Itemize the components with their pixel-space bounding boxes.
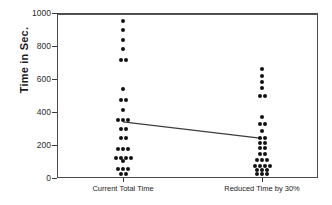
data-point: [263, 136, 267, 140]
data-point: [124, 136, 128, 140]
data-point: [121, 47, 125, 51]
data-point: [260, 115, 264, 119]
data-point: [116, 118, 120, 122]
data-point: [265, 158, 269, 162]
data-point: [263, 146, 267, 150]
y-axis-tick-label: 1000: [23, 9, 51, 18]
x-axis-tick-label: Reduced Time by 30%: [224, 184, 299, 193]
data-point: [129, 156, 133, 160]
trend-line-segment: [123, 122, 262, 138]
data-point: [121, 38, 125, 42]
data-point: [121, 167, 125, 171]
data-point: [260, 129, 264, 133]
data-point: [121, 19, 125, 23]
data-point: [119, 172, 123, 176]
data-point: [260, 74, 264, 78]
data-point: [260, 67, 264, 71]
data-point: [263, 164, 267, 168]
x-axis-tick-mark: [123, 177, 124, 182]
data-point: [255, 158, 259, 162]
data-point: [263, 94, 267, 98]
data-point: [253, 164, 257, 168]
data-point: [258, 152, 262, 156]
data-point: [260, 158, 264, 162]
data-point: [263, 141, 267, 145]
data-point: [119, 127, 123, 131]
y-axis-tick-mark: [52, 178, 57, 179]
mean-connector-line: [57, 13, 318, 178]
data-point: [121, 28, 125, 32]
data-point: [263, 122, 267, 126]
data-point: [268, 164, 272, 168]
data-point: [124, 127, 128, 131]
chart-screenshot: Time in Sec. 1000 800 600 400 200 0 Curr…: [0, 0, 332, 205]
x-axis-tick-mark: [262, 177, 263, 182]
data-point: [258, 136, 262, 140]
data-point: [114, 156, 118, 160]
y-axis-tick-label: 600: [23, 75, 51, 84]
data-point: [119, 136, 123, 140]
y-axis-tick-label: 400: [23, 108, 51, 117]
data-point: [119, 58, 123, 62]
data-point: [255, 168, 259, 172]
data-point: [255, 172, 259, 176]
data-point: [119, 98, 123, 102]
data-point: [126, 147, 130, 151]
data-point: [121, 147, 125, 151]
y-axis-tick-label-group: 1000 800 600 400 200 0: [23, 0, 51, 205]
plot-area: [57, 13, 318, 178]
data-point: [258, 141, 262, 145]
y-axis-tick-label: 800: [23, 42, 51, 51]
data-point: [121, 108, 125, 112]
data-point: [260, 80, 264, 84]
data-point: [126, 118, 130, 122]
data-point: [124, 172, 128, 176]
data-point: [263, 152, 267, 156]
data-point: [119, 156, 123, 160]
data-point: [121, 87, 125, 91]
y-axis-tick-label: 0: [23, 174, 51, 183]
data-point: [258, 94, 262, 98]
data-point: [260, 86, 264, 90]
data-point: [260, 168, 264, 172]
data-point: [126, 167, 130, 171]
data-point: [260, 172, 264, 176]
data-point: [265, 172, 269, 176]
data-point: [265, 168, 269, 172]
data-point: [116, 167, 120, 171]
data-point: [258, 122, 262, 126]
data-point: [124, 156, 128, 160]
data-point: [121, 118, 125, 122]
data-point: [124, 98, 128, 102]
x-axis-tick-label: Current Total Time: [92, 184, 153, 193]
data-point: [258, 164, 262, 168]
data-point: [258, 146, 262, 150]
y-axis-tick-label: 200: [23, 141, 51, 150]
data-point: [116, 147, 120, 151]
data-point: [124, 58, 128, 62]
